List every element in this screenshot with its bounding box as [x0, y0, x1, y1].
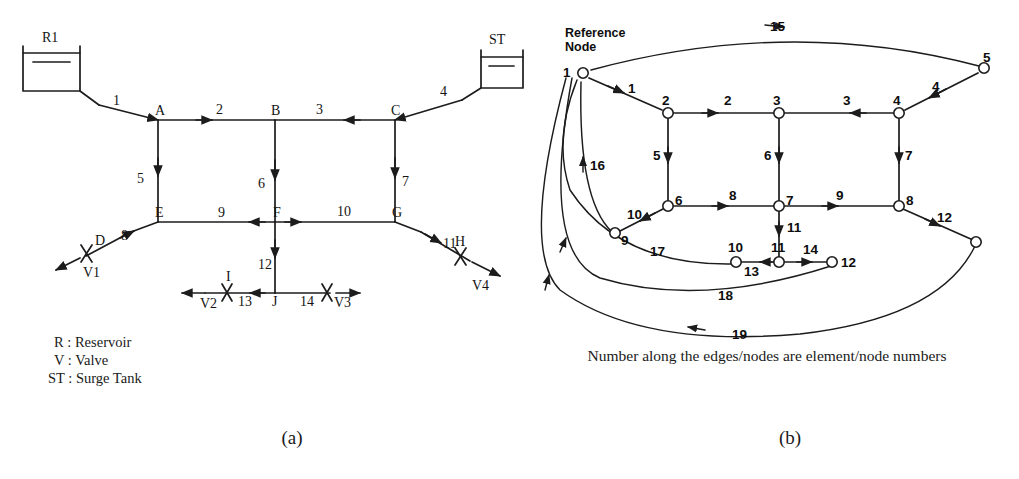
edge-19-arrow — [688, 327, 705, 330]
edge-17 — [563, 80, 733, 264]
node-label-b: B — [271, 103, 280, 118]
pipe-number-14: 14 — [300, 294, 314, 309]
graph-node-number-12: 12 — [841, 255, 856, 270]
valve-label-v1: V1 — [83, 265, 100, 280]
edge-number-7: 7 — [905, 148, 913, 163]
subcaption-b: (b) — [779, 427, 801, 449]
graph-node-10 — [731, 257, 741, 267]
node-label-g: G — [392, 205, 402, 220]
graph-node-unlabeled — [971, 237, 981, 247]
edge-number-17: 17 — [650, 244, 665, 259]
edge-number-8: 8 — [729, 188, 737, 203]
edge-number-6: 6 — [764, 148, 772, 163]
valve-label-v4: V4 — [472, 278, 489, 293]
edge-number-2: 2 — [724, 93, 732, 108]
surge-tank-symbol — [481, 50, 523, 88]
node-label-f: F — [273, 205, 281, 220]
edge-number-9: 9 — [836, 188, 844, 203]
node-label-h: H — [455, 234, 465, 249]
graph-node-number-11: 11 — [771, 240, 786, 255]
graph-node-number-6: 6 — [675, 193, 683, 208]
graph-node-number-5: 5 — [983, 50, 991, 65]
pipe-number-3: 3 — [316, 102, 323, 117]
v1-discharge-arrow — [56, 258, 80, 270]
graph-node-8 — [894, 201, 904, 211]
panel-b-caption: Number along the edges/nodes are element… — [588, 347, 947, 364]
graph-node-4 — [894, 108, 904, 118]
edge-number-19: 19 — [732, 327, 747, 342]
pipe-number-9: 9 — [218, 205, 225, 220]
panel-b-group: Reference Node 1 2 3 4 5 6 7 8 9 10 11 1… — [541, 19, 991, 449]
graph-node-number-8: 8 — [906, 193, 914, 208]
edge-number-13: 13 — [744, 264, 760, 279]
graph-node-1 — [578, 68, 588, 78]
valve-v4-symbol — [455, 248, 466, 265]
valve-label-v2: V2 — [200, 296, 217, 311]
edge-1 — [589, 78, 662, 110]
graph-node-6 — [663, 201, 673, 211]
pipe-number-6: 6 — [258, 176, 265, 191]
graph-node-number-9: 9 — [621, 233, 629, 248]
node-label-a: A — [155, 103, 166, 118]
surge-tank-label: ST — [489, 32, 506, 47]
node-label-i: I — [226, 269, 231, 284]
figure-root: R1 ST 1 2 3 4 5 6 7 8 9 10 11 12 13 14 A… — [0, 0, 1019, 479]
graph-node-number-3: 3 — [773, 93, 781, 108]
valve-label-v3: V3 — [334, 295, 351, 310]
edge-number-1: 1 — [628, 81, 636, 96]
node-label-j: J — [272, 294, 278, 309]
pipe-number-13: 13 — [238, 294, 252, 309]
graph-node-number-7: 7 — [786, 193, 794, 208]
pipe-number-4: 4 — [440, 84, 447, 99]
edge-18-arrow — [545, 275, 549, 290]
pipe-number-2: 2 — [216, 102, 223, 117]
subcaption-a: (a) — [281, 427, 302, 449]
reservoir-label: R1 — [42, 30, 58, 45]
pipe-number-8: 8 — [121, 228, 128, 243]
edge-1-arrow — [608, 86, 624, 93]
edge-number-3: 3 — [843, 93, 851, 108]
legend-line-surge-tank: ST : Surge Tank — [48, 370, 142, 386]
pipe-number-10: 10 — [337, 204, 351, 219]
edge-10-arrow — [640, 213, 655, 221]
pipe-11-arrow — [425, 234, 441, 243]
edge-number-4: 4 — [932, 79, 940, 94]
graph-node-number-10: 10 — [728, 240, 743, 255]
graph-node-7 — [774, 201, 784, 211]
edge-number-14: 14 — [803, 242, 819, 257]
graph-node-number-2: 2 — [662, 93, 670, 108]
reference-node-label-line1: Reference — [565, 26, 625, 40]
graph-node-number-1: 1 — [563, 65, 571, 80]
edge-number-11: 11 — [787, 220, 802, 235]
node-label-e: E — [155, 205, 164, 220]
graph-node-12 — [827, 257, 837, 267]
pipe-8-seg-flat — [131, 222, 158, 232]
edge-17-arrow — [560, 238, 566, 252]
graph-node-2 — [663, 108, 673, 118]
edge-number-18: 18 — [718, 288, 734, 303]
pipe-number-12: 12 — [258, 257, 272, 272]
edge-number-5: 5 — [653, 148, 661, 163]
pipe-1 — [99, 105, 158, 120]
graph-node-11 — [774, 257, 784, 267]
surge-tank-outlet-leg — [462, 88, 481, 100]
graph-node-number-4: 4 — [893, 93, 901, 108]
panel-a-group: R1 ST 1 2 3 4 5 6 7 8 9 10 11 12 13 14 A… — [23, 30, 523, 449]
graph-node-3 — [774, 108, 784, 118]
reservoir-r1-symbol — [23, 46, 80, 91]
node-label-d: D — [95, 233, 105, 248]
edge-number-12: 12 — [937, 210, 952, 225]
edge-number-15: 15 — [770, 19, 786, 34]
pipe-11-seg-flat — [395, 222, 421, 232]
graph-node-9 — [610, 228, 620, 238]
pipe-4 — [395, 100, 462, 120]
legend-line-valve: V : Valve — [54, 352, 108, 368]
figure-canvas: R1 ST 1 2 3 4 5 6 7 8 9 10 11 12 13 14 A… — [0, 0, 1019, 479]
reference-node-label-line2: Node — [565, 40, 596, 54]
edge-number-10: 10 — [627, 207, 642, 222]
edge-number-16: 16 — [590, 158, 606, 173]
edge-18 — [561, 78, 831, 291]
legend-line-reservoir: R : Reservoir — [54, 334, 131, 350]
reservoir-outlet-leg — [80, 91, 99, 105]
v4-discharge-arrow — [472, 262, 500, 276]
